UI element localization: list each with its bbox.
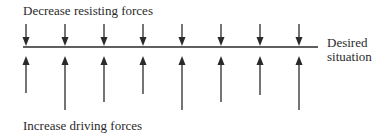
arrowhead-icon <box>179 56 186 65</box>
desired-label-line1: Desired <box>327 36 372 50</box>
resisting-forces-arrows <box>23 24 303 46</box>
arrowhead-icon <box>23 56 30 65</box>
arrowhead-icon <box>62 56 69 65</box>
arrowhead-icon <box>218 37 225 46</box>
down-arrow-icon <box>23 24 30 46</box>
arrowhead-icon <box>257 37 264 46</box>
up-arrow-icon <box>296 56 303 110</box>
up-arrow-icon <box>257 56 264 95</box>
resisting-forces-label: Decrease resisting forces <box>23 4 153 17</box>
down-arrow-icon <box>257 24 264 46</box>
arrowhead-icon <box>62 37 69 46</box>
arrowhead-icon <box>101 37 108 46</box>
down-arrow-icon <box>62 24 69 46</box>
down-arrow-icon <box>140 24 147 46</box>
down-arrow-icon <box>296 24 303 46</box>
arrowhead-icon <box>257 56 264 65</box>
down-arrow-icon <box>179 24 186 46</box>
up-arrow-icon <box>140 56 147 94</box>
up-arrow-icon <box>218 56 225 102</box>
driving-forces-arrows <box>23 56 303 110</box>
arrowhead-icon <box>101 56 108 65</box>
arrowhead-icon <box>296 56 303 65</box>
arrowhead-icon <box>296 37 303 46</box>
up-arrow-icon <box>23 56 30 93</box>
arrowhead-icon <box>179 37 186 46</box>
up-arrow-icon <box>101 56 108 102</box>
desired-situation-label: Desired situation <box>327 36 372 64</box>
desired-label-line2: situation <box>327 50 372 64</box>
arrowhead-icon <box>218 56 225 65</box>
up-arrow-icon <box>179 56 186 110</box>
down-arrow-icon <box>218 24 225 46</box>
arrowhead-icon <box>23 37 30 46</box>
arrowhead-icon <box>140 56 147 65</box>
arrowhead-icon <box>140 37 147 46</box>
down-arrow-icon <box>101 24 108 46</box>
up-arrow-icon <box>62 56 69 110</box>
driving-forces-label: Increase driving forces <box>23 119 142 132</box>
